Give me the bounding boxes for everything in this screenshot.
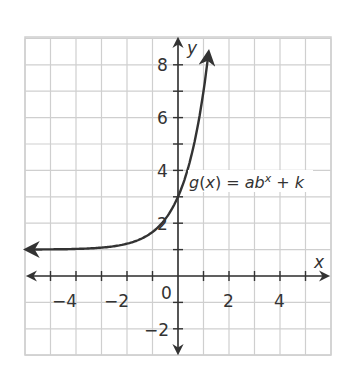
eq-close: ) = [215, 173, 245, 192]
y-tick-label: 4 [157, 161, 168, 181]
exponential-graph: x y 0 −4 −2 2 4 8 6 4 2 −2 g(x) = abx + … [0, 0, 348, 371]
x-axis-label: x [313, 252, 325, 272]
eq-plus: + [271, 173, 295, 192]
x-tick-label: 4 [274, 291, 285, 311]
y-tick-label: −2 [144, 320, 169, 340]
origin-label: 0 [161, 283, 172, 303]
eq-b: b [255, 173, 265, 192]
x-tick-label: −2 [104, 291, 129, 311]
equation-label: g(x) = abx + k [189, 172, 305, 192]
x-tick-label: 2 [223, 291, 234, 311]
eq-a: a [245, 173, 255, 192]
eq-g: g [189, 173, 199, 192]
eq-k: k [295, 173, 305, 192]
y-tick-label: 2 [157, 214, 168, 234]
y-axis-label: y [186, 38, 198, 58]
curve-g [26, 52, 208, 249]
y-tick-label: 6 [157, 108, 168, 128]
y-tick-label: 8 [157, 55, 168, 75]
eq-x: x [204, 173, 215, 192]
x-tick-label: −4 [52, 291, 77, 311]
